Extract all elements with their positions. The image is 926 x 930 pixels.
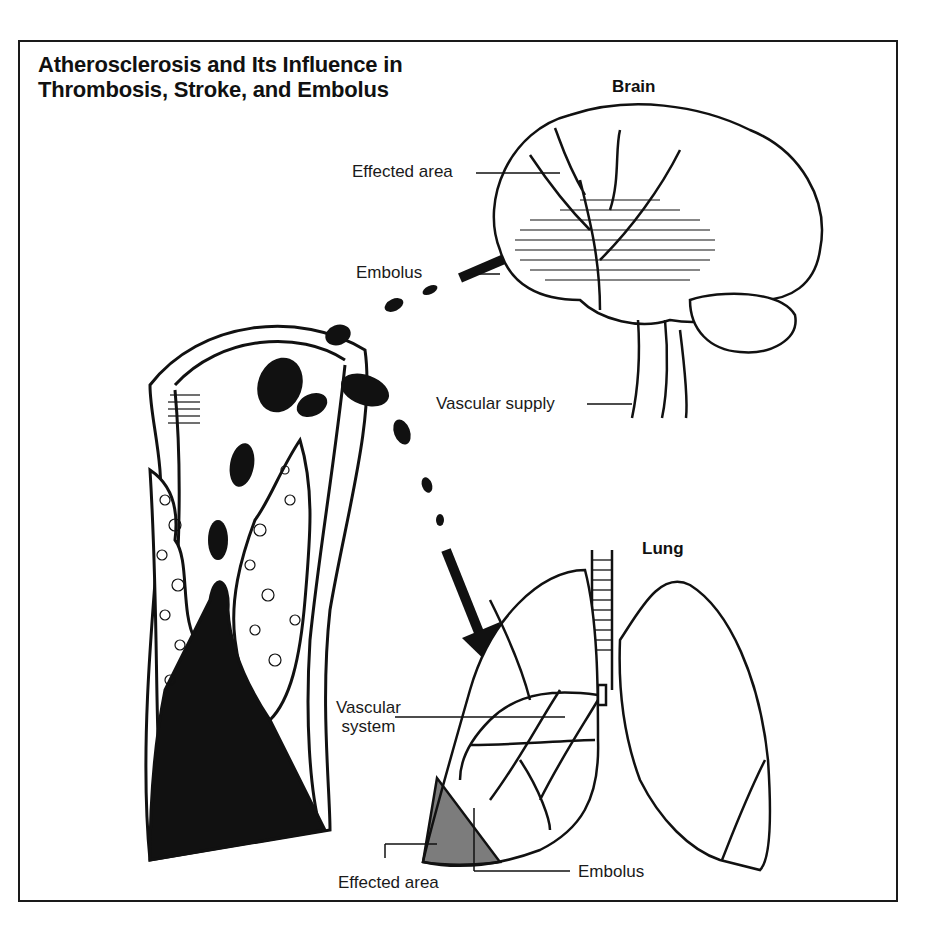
vascular-system-line-2: system xyxy=(336,717,401,736)
brain-diagram xyxy=(494,104,822,418)
lung-vascular-system-label: Vascular system xyxy=(336,698,401,736)
lung-effected-area-label: Effected area xyxy=(338,873,439,892)
lung-diagram xyxy=(423,550,770,870)
illustration xyxy=(0,0,926,930)
artery-cross-section xyxy=(146,326,367,860)
lung-heading: Lung xyxy=(642,539,684,559)
vascular-system-line-1: Vascular xyxy=(336,698,401,717)
brain-vascular-supply-label: Vascular supply xyxy=(436,394,555,413)
brain-embolus-label: Embolus xyxy=(356,263,422,282)
brain-effected-area-label: Effected area xyxy=(352,162,453,181)
lung-embolus-label: Embolus xyxy=(578,862,644,881)
brain-heading: Brain xyxy=(612,77,655,97)
